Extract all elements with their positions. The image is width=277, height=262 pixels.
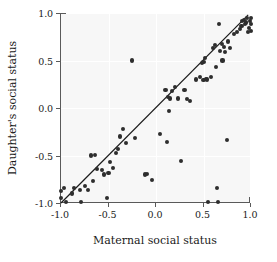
data-point (223, 50, 227, 54)
data-point (220, 58, 224, 62)
gridline-vertical (251, 13, 252, 202)
y-tick-mark (56, 156, 60, 157)
y-tick-label: -1.0 (35, 198, 53, 209)
x-tick-label: 1.0 (243, 209, 258, 220)
data-point (206, 200, 210, 204)
x-tick-label: 0.0 (148, 209, 163, 220)
data-point (165, 140, 169, 144)
data-point (62, 186, 66, 190)
data-points-layer (61, 13, 250, 202)
y-tick-mark (56, 13, 60, 14)
data-point (216, 200, 220, 204)
data-point (79, 200, 83, 204)
data-point (168, 96, 172, 100)
data-point (163, 88, 167, 92)
data-point (150, 178, 154, 182)
data-point (226, 39, 230, 43)
y-axis-top-cap (60, 13, 66, 14)
y-tick-mark (56, 61, 60, 62)
data-point (209, 75, 213, 79)
data-point (111, 166, 115, 170)
data-point (213, 43, 217, 47)
data-point (249, 16, 253, 20)
data-point (116, 147, 120, 151)
data-point (145, 172, 149, 176)
plot-area (60, 13, 250, 203)
data-point (182, 88, 186, 92)
x-tick-label: -1.0 (51, 209, 69, 220)
data-point (225, 138, 229, 142)
x-tick-mark (60, 203, 61, 207)
y-tick-mark (56, 108, 60, 109)
data-point (86, 188, 90, 192)
data-point (102, 172, 106, 176)
data-point (91, 179, 95, 183)
data-point (203, 56, 207, 60)
y-tick-label: 0.0 (38, 103, 53, 114)
x-axis-title: Maternal social status (60, 234, 250, 247)
data-point (218, 49, 222, 53)
data-point (130, 58, 134, 62)
scatter-plot-figure: -1.0-0.50.00.51.0 -1.0-0.50.00.51.0 Mate… (0, 0, 277, 262)
y-tick-mark (56, 203, 60, 204)
x-tick-mark (203, 203, 204, 207)
data-point (114, 151, 118, 155)
data-point (158, 132, 162, 136)
data-point (179, 159, 183, 163)
data-point (78, 188, 82, 192)
data-point (93, 153, 97, 157)
data-point (133, 136, 137, 140)
data-point (228, 46, 232, 50)
x-tick-mark (250, 203, 251, 207)
x-tick-mark (155, 203, 156, 207)
data-point (59, 196, 63, 200)
data-point (70, 191, 74, 195)
y-axis-title: Daughter's social status (6, 13, 20, 203)
data-point (108, 160, 112, 164)
data-point (176, 96, 180, 100)
x-tick-label: -0.5 (99, 209, 117, 220)
data-point (214, 65, 218, 69)
y-tick-label: 0.5 (38, 55, 53, 66)
data-point (188, 99, 192, 103)
x-tick-mark (108, 203, 109, 207)
data-point (170, 89, 174, 93)
data-point (105, 196, 109, 200)
data-point (121, 127, 125, 131)
data-point (64, 200, 68, 204)
data-point (173, 85, 177, 89)
data-point (124, 141, 128, 145)
y-tick-label: -0.5 (35, 150, 53, 161)
data-point (118, 134, 122, 138)
data-point (106, 171, 110, 175)
data-point (201, 60, 205, 64)
data-point (215, 186, 219, 190)
data-point (100, 168, 104, 172)
y-tick-label: 1.0 (38, 8, 53, 19)
data-point (249, 29, 253, 33)
data-point (222, 45, 226, 49)
data-point (167, 109, 171, 113)
data-point (249, 22, 253, 26)
x-tick-label: 0.5 (195, 209, 210, 220)
data-point (217, 22, 221, 26)
data-point (72, 186, 76, 190)
data-point (95, 167, 99, 171)
